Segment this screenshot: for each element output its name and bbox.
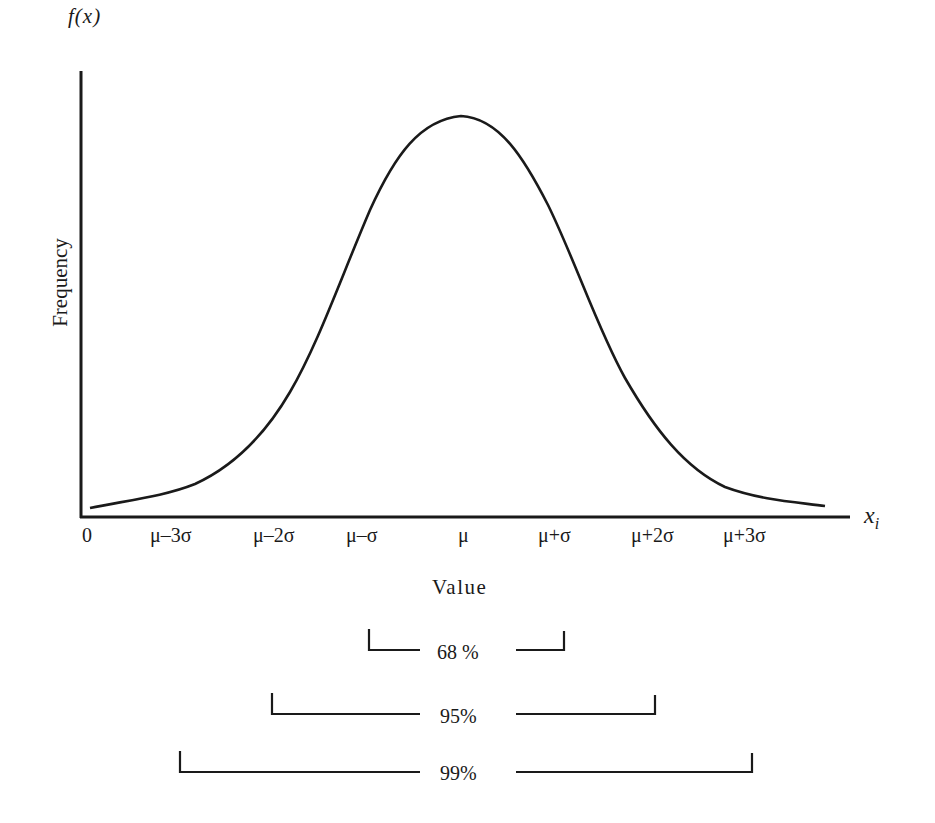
x-tick-mu-plus-sigma: μ+σ [538,524,571,547]
x-axis-symbol-subscript: i [875,515,879,532]
label-99-percent: 99% [440,762,477,785]
x-tick-zero: 0 [82,524,92,547]
label-95-percent: 95% [440,705,477,728]
label-68-percent: 68 % [437,641,479,664]
x-tick-mu-minus-sigma: μ–σ [346,524,378,547]
x-tick-mu-minus-3sigma: μ–3σ [150,524,192,547]
x-axis-label: Value [432,575,487,600]
x-tick-mu: μ [458,524,469,547]
x-tick-mu-plus-3sigma: μ+3σ [723,524,766,547]
y-axis-symbol: f(x) [68,4,101,29]
x-axis-symbol: xi [864,502,879,533]
x-axis-symbol-base: x [864,502,875,528]
x-tick-mu-minus-2sigma: μ–2σ [253,524,295,547]
y-axis-label: Frequency [48,223,73,343]
x-tick-mu-plus-2sigma: μ+2σ [631,524,674,547]
normal-curve [90,116,825,508]
chart-canvas [0,0,935,823]
